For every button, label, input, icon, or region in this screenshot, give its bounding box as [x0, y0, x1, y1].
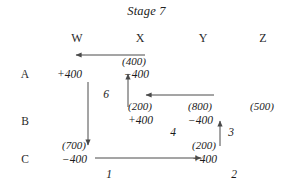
arrow-label-two: 2 [227, 168, 241, 180]
cell-a-x-cost: (400) [122, 55, 146, 67]
column-header-z: Z [248, 31, 278, 46]
cell-b-x-value: +400 [128, 114, 153, 126]
arrow-label-one: 1 [102, 168, 116, 180]
cell-c-y-cost: (200) [192, 139, 216, 151]
arrow-label-three: 3 [224, 126, 238, 138]
column-header-x: X [125, 31, 155, 46]
cell-b-z-cost: (500) [250, 100, 274, 112]
cell-a-w-value: +400 [57, 68, 82, 80]
row-label-a: A [16, 68, 34, 80]
cell-c-w-cost: (700) [62, 139, 86, 151]
column-header-y: Y [188, 31, 218, 46]
column-header-w: W [62, 31, 92, 46]
cell-a-x-value: −400 [124, 68, 149, 80]
cell-b-y-cost: (800) [188, 100, 212, 112]
cell-c-y-value: +400 [192, 153, 217, 165]
stage-diagram: Stage 7 W X Y Z A B C +400 (400) −400 (2… [0, 0, 293, 192]
cell-b-x-cost: (200) [128, 100, 152, 112]
row-label-b: B [16, 115, 34, 127]
arrow-label-six: 6 [99, 88, 113, 100]
page-title: Stage 7 [0, 4, 293, 19]
row-label-c: C [16, 153, 34, 165]
cell-c-w-value: −400 [62, 153, 87, 165]
cell-b-y-value: −400 [188, 114, 213, 126]
arrow-label-four: 4 [166, 126, 180, 138]
arrow-layer [0, 0, 293, 192]
